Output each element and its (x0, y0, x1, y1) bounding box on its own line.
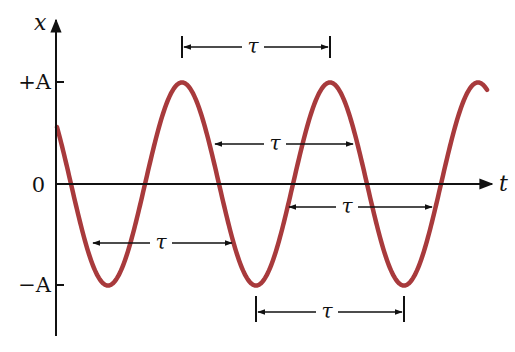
tick-label-minus-a: −A (18, 273, 52, 297)
period-label: τ (155, 230, 167, 254)
tick-label-plus-a: +A (18, 70, 52, 94)
period-label: τ (269, 131, 281, 155)
x-axis-label: t (499, 171, 508, 196)
tick-label-zero: 0 (32, 173, 45, 197)
oscillation-diagram: x t +A 0 −A τ τ τ τ τ (0, 0, 515, 352)
period-marker-zero-crossing: τ (289, 194, 432, 218)
y-axis-label: x (34, 10, 47, 35)
period-marker-lower: τ (93, 230, 232, 254)
period-label: τ (321, 299, 333, 323)
period-label: τ (247, 34, 259, 58)
period-marker-peaks: τ (182, 34, 330, 58)
period-marker-troughs: τ (256, 296, 404, 323)
period-marker-upper: τ (215, 131, 353, 155)
period-label: τ (341, 194, 353, 218)
